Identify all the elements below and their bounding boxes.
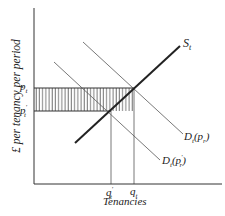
y-axis-label: £ per tenancy per period [10, 36, 22, 156]
price-low-label: p′t [20, 103, 26, 119]
demand-label-pr: Dt(pr) [184, 130, 209, 145]
demand-label-pr-prime: Dt(p′r) [162, 153, 186, 169]
price-high-label: pt [20, 80, 27, 95]
qty-low-label: q′t [106, 185, 112, 201]
supply-demand-diagram [0, 0, 225, 216]
hatched-area [34, 88, 134, 111]
supply-label: St [183, 36, 191, 52]
qty-high-label: qt [130, 185, 137, 200]
